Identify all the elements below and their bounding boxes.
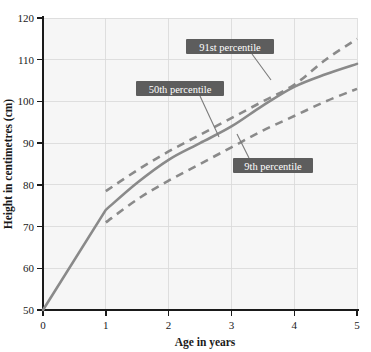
chart-canvas: 120 110 100 90 80 70 60 50 0 1 2 3 4 5 A… [0,0,371,352]
x-tick-label-2: 2 [166,319,172,331]
x-tick-label-1: 1 [103,319,109,331]
y-tick-label-70: 70 [23,221,35,233]
y-tick-label-100: 100 [18,95,35,107]
y-tick-label-80: 80 [23,179,35,191]
callout-label-50th-percentile: 50th percentile [149,84,212,95]
y-tick-label-60: 60 [23,262,35,274]
x-tick-label-5: 5 [354,319,360,331]
y-tick-label-110: 110 [18,54,35,66]
callout-91st-percentile: 91st percentile [186,39,274,54]
x-axis-ticks [43,310,357,316]
x-axis-title: Age in years [175,336,236,349]
growth-chart: 120 110 100 90 80 70 60 50 0 1 2 3 4 5 A… [0,0,371,352]
callout-label-91st-percentile: 91st percentile [199,42,261,53]
y-tick-label-90: 90 [23,137,35,149]
callout-9th-percentile: 9th percentile [233,158,313,173]
x-tick-label-3: 3 [229,319,235,331]
callout-label-9th-percentile: 9th percentile [244,161,302,172]
y-tick-label-50: 50 [23,304,35,316]
y-tick-label-120: 120 [18,12,35,24]
x-tick-label-4: 4 [291,319,297,331]
callout-50th-percentile: 50th percentile [136,81,224,96]
y-axis-title: Height in centimetres (cm) [2,99,15,230]
x-tick-label-0: 0 [40,319,46,331]
y-axis-ticks [37,18,43,310]
